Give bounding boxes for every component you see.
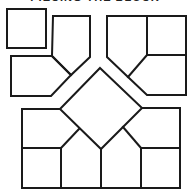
bottom-left-divider-diagonal	[61, 129, 79, 148]
corner-square	[7, 9, 46, 48]
bottom-right-divider-diagonal	[123, 127, 141, 148]
top-left-pentagon	[52, 16, 90, 75]
left-pentagon	[11, 56, 71, 96]
quilt-block-diagram	[0, 0, 190, 195]
top-right-divider-diagonal	[128, 55, 147, 77]
